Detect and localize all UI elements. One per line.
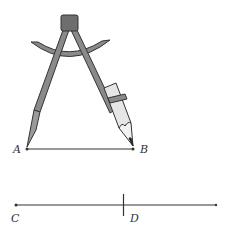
compass-needle [27,110,40,147]
point-b [132,148,135,151]
segment-ab: A B [12,143,148,156]
label-d: D [129,212,139,225]
ray-c: C D [11,194,217,225]
label-c: C [11,212,20,225]
pencil [104,83,133,146]
ray-end-point [215,204,217,206]
compass-construction-diagram: A B C D [0,0,230,235]
label-b: B [139,143,148,156]
compass [27,15,133,147]
compass-arc [31,40,110,57]
point-c [15,204,18,207]
point-a [26,148,29,151]
compass-head [61,15,78,31]
label-a: A [12,143,21,156]
